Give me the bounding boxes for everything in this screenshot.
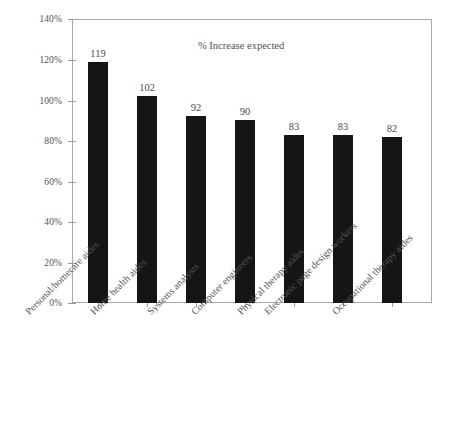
bar-value-label: 102: [124, 82, 170, 93]
bar-value-label: 119: [75, 48, 121, 59]
bars-layer: 119 102 92 90 83 83 82: [0, 0, 453, 427]
bar-value-label: 83: [320, 121, 366, 132]
bar[interactable]: [382, 137, 402, 303]
bar-value-label: 92: [173, 102, 219, 113]
bar-value-label: 83: [271, 121, 317, 132]
bar-value-label: 90: [222, 106, 268, 117]
bar[interactable]: [88, 62, 108, 303]
bar-chart: 140% 120% 100% 80% 60% 40% 20% 0% % Incr…: [0, 0, 453, 427]
bar-value-label: 82: [369, 123, 415, 134]
bar[interactable]: [333, 135, 353, 303]
